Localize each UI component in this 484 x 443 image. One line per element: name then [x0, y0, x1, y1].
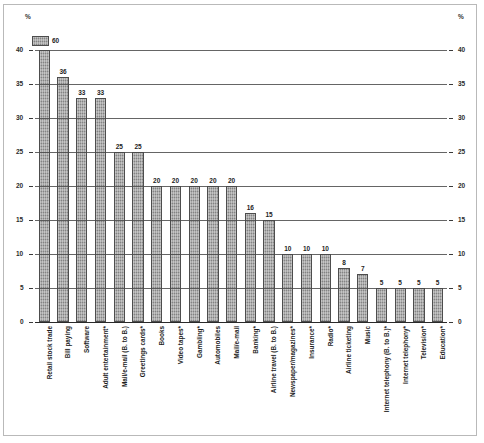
- x-axis-label: Airline travel (B. to B.): [271, 326, 277, 393]
- x-axis-label: Retail stock trade: [47, 326, 53, 379]
- x-axis-label: Education*: [440, 326, 446, 359]
- bar-value-label: 20: [191, 178, 198, 185]
- y-tick-left-40: 40: [16, 47, 23, 54]
- bar-value-label: 16: [247, 205, 254, 212]
- bar-value-label: 10: [303, 246, 310, 253]
- gridline-15: [35, 220, 447, 221]
- bar: [357, 274, 368, 322]
- bar-value-label: 25: [134, 144, 141, 151]
- y-tick-mark-left-10: [29, 254, 33, 255]
- y-tick-right-35: 35: [458, 81, 465, 88]
- bar: [413, 288, 424, 322]
- bar-value-label: 5: [398, 280, 402, 287]
- x-axis-label: Gambling*: [197, 326, 203, 358]
- bar-fill: [132, 152, 143, 322]
- bar-value-label: 36: [59, 69, 66, 76]
- x-axis-label: Adult entertainment*: [103, 326, 109, 389]
- y-tick-left-15: 15: [16, 217, 23, 224]
- plot-area: 363333252520202020201615101010875555: [35, 50, 447, 322]
- y-tick-mark-right-35: [449, 84, 453, 85]
- y-tick-mark-right-25: [449, 152, 453, 153]
- x-axis-label: Bill paying: [65, 326, 71, 358]
- x-axis-label: Mail/e-mail (B. to B.): [122, 326, 128, 387]
- bar: [114, 152, 125, 322]
- bar-value-label: 33: [97, 90, 104, 97]
- bar: [132, 152, 143, 322]
- bar-fill: [376, 288, 387, 322]
- x-axis-label: Mail/e-mail: [234, 326, 240, 359]
- legend: 60: [32, 36, 59, 46]
- y-axis-unit-left: %: [25, 13, 31, 20]
- bar: [395, 288, 406, 322]
- y-tick-mark-left-35: [29, 84, 33, 85]
- y-tick-mark-left-40: [29, 50, 33, 51]
- y-tick-right-20: 20: [458, 183, 465, 190]
- x-axis-category-labels: Retail stock tradeBill payingSoftwareAdu…: [35, 326, 447, 438]
- bar-value-label: 5: [417, 280, 421, 287]
- x-axis-label: Newspaper/magazines*: [290, 326, 296, 397]
- y-tick-right-25: 25: [458, 149, 465, 156]
- gridline-25: [35, 152, 447, 153]
- bar-value-label: 10: [322, 246, 329, 253]
- y-tick-left-20: 20: [16, 183, 23, 190]
- y-tick-left-0: 0: [20, 319, 24, 326]
- y-tick-left-30: 30: [16, 115, 23, 122]
- bar-fill: [263, 220, 274, 322]
- bar-fill: [338, 268, 349, 322]
- y-tick-right-5: 5: [458, 285, 462, 292]
- y-tick-left-5: 5: [20, 285, 24, 292]
- bar-fill: [357, 274, 368, 322]
- bar-fill: [413, 288, 424, 322]
- x-axis-label: Television*: [421, 326, 427, 359]
- bar-fill: [395, 288, 406, 322]
- x-axis-label: Airline ticketing: [346, 326, 352, 374]
- bar-value-label: 25: [116, 144, 123, 151]
- gridline-0: [35, 322, 447, 323]
- y-tick-right-40: 40: [458, 47, 465, 54]
- bar: [57, 77, 68, 322]
- y-tick-mark-left-0: [29, 322, 33, 323]
- x-axis-label: Insurance*: [309, 326, 315, 359]
- chart-canvas: % % 60 363333252520202020201615101010875…: [0, 0, 484, 443]
- y-tick-left-35: 35: [16, 81, 23, 88]
- y-tick-left-10: 10: [16, 251, 23, 258]
- x-axis-label: Internet telephony*: [403, 326, 409, 384]
- bar-fill: [245, 213, 256, 322]
- bar-value-label: 5: [436, 280, 440, 287]
- bar-value-label: 20: [172, 178, 179, 185]
- bar-value-label: 20: [209, 178, 216, 185]
- gridline-30: [35, 118, 447, 119]
- y-axis-unit-right: %: [458, 13, 464, 20]
- bar-value-label: 15: [265, 212, 272, 219]
- bar-value-label: 5: [380, 280, 384, 287]
- gridline-10: [35, 254, 447, 255]
- bar-value-label: 20: [228, 178, 235, 185]
- bar: [263, 220, 274, 322]
- y-tick-mark-right-5: [449, 288, 453, 289]
- y-tick-mark-left-30: [29, 118, 33, 119]
- y-tick-mark-right-10: [449, 254, 453, 255]
- bar-fill-swatch: [32, 36, 49, 46]
- x-axis-label: Books: [159, 326, 165, 346]
- y-tick-mark-left-20: [29, 186, 33, 187]
- x-axis-label: Software: [84, 326, 90, 353]
- x-axis-label: Radio*: [328, 326, 334, 346]
- bar-fill: [57, 77, 68, 322]
- bar-value-label: 10: [284, 246, 291, 253]
- gridline-5: [35, 288, 447, 289]
- bar-value-label: 7: [361, 266, 365, 273]
- x-axis-label: Music: [365, 326, 371, 344]
- y-tick-left-25: 25: [16, 149, 23, 156]
- y-tick-right-15: 15: [458, 217, 465, 224]
- y-tick-right-30: 30: [458, 115, 465, 122]
- bar: [338, 268, 349, 322]
- y-tick-mark-right-20: [449, 186, 453, 187]
- y-tick-right-0: 0: [458, 319, 462, 326]
- bar: [245, 213, 256, 322]
- bar: [432, 288, 443, 322]
- x-axis-label: Greetings cards*: [140, 326, 146, 377]
- bar-fill: [114, 152, 125, 322]
- bar-fill: [432, 288, 443, 322]
- x-axis-label: Automobiles: [215, 326, 221, 365]
- y-tick-mark-left-5: [29, 288, 33, 289]
